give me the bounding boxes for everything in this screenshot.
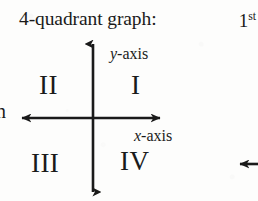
quadrant-label-1: I (131, 72, 140, 99)
x-axis-label-suffix: -axis (141, 127, 172, 144)
quadrant-label-3: III (31, 150, 59, 177)
quadrant-label-2: II (39, 72, 58, 99)
x-axis-label: x-axis (134, 128, 172, 144)
y-axis-label: y-axis (110, 46, 148, 62)
y-axis-label-suffix: -axis (117, 45, 148, 62)
quadrant-label-4: IV (120, 148, 149, 175)
scanned-page: 4-quadrant graph: 1st n (0, 0, 258, 201)
